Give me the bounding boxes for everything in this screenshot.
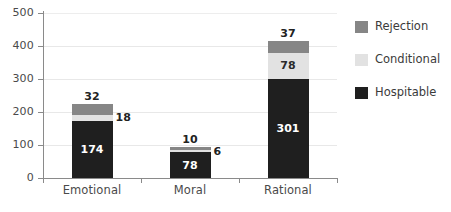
bar-value-label: 6	[211, 146, 222, 157]
bar-value-label: 32	[72, 91, 113, 102]
bar-group-emotional[interactable]: 1741832	[72, 13, 113, 178]
legend-swatch-icon	[355, 54, 368, 66]
legend-label: Hospitable	[375, 86, 436, 99]
bar-value-label: 37	[268, 28, 309, 39]
bar-segment-rational-hospitable[interactable]: 301	[268, 79, 309, 178]
bar-segment-emotional-rejection[interactable]: 32	[72, 104, 113, 115]
bar-segment-moral-conditional[interactable]: 6	[170, 150, 211, 152]
bar-segment-rational-conditional[interactable]: 78	[268, 53, 309, 79]
bar-segment-moral-hospitable[interactable]: 78	[170, 152, 211, 178]
x-tick-label-moral: Moral	[141, 183, 239, 197]
bar-value-label: 78	[268, 60, 309, 71]
legend-label: Conditional	[375, 53, 440, 66]
bar-value-label: 10	[170, 134, 211, 145]
bar-segment-emotional-hospitable[interactable]: 174	[72, 121, 113, 178]
bar-segment-emotional-conditional[interactable]: 18	[72, 115, 113, 121]
y-tick-label: 400	[0, 39, 34, 52]
x-axis-line	[43, 178, 338, 179]
x-tick-mark	[337, 178, 338, 183]
bar-group-rational[interactable]: 3017837	[268, 13, 309, 178]
y-tick-label: 100	[0, 138, 34, 151]
legend-swatch-icon	[355, 87, 368, 99]
bar-segment-moral-rejection[interactable]: 10	[170, 147, 211, 150]
bar-value-label: 301	[268, 123, 309, 134]
bar-value-label: 78	[170, 160, 211, 171]
legend-label: Rejection	[375, 20, 428, 33]
bar-group-moral[interactable]: 78610	[170, 13, 211, 178]
plot-area: 1741832786103017837	[43, 13, 337, 178]
y-tick-label: 0	[0, 171, 34, 184]
y-axis-line	[43, 11, 44, 180]
stacked-bar-chart: 1741832786103017837 0100200300400500 Emo…	[0, 0, 451, 212]
legend-swatch-icon	[355, 21, 368, 33]
x-tick-label-emotional: Emotional	[43, 183, 141, 197]
y-tick-label: 200	[0, 105, 34, 118]
bar-value-label: 18	[113, 112, 131, 123]
bar-segment-rational-rejection[interactable]: 37	[268, 41, 309, 53]
y-tick-label: 300	[0, 72, 34, 85]
bar-value-label: 174	[72, 144, 113, 155]
y-tick-label: 500	[0, 6, 34, 19]
x-tick-label-rational: Rational	[239, 183, 337, 197]
